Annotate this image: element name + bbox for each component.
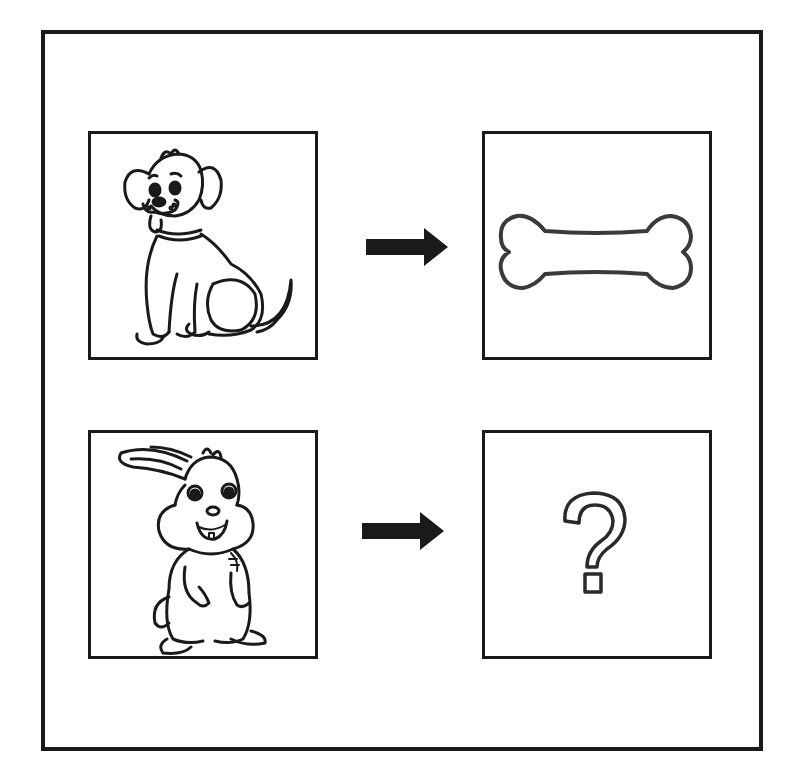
bone-panel: Bone (482, 131, 712, 360)
rabbit-icon (91, 433, 315, 656)
right-arrow-icon (366, 228, 448, 266)
answer-panel[interactable]: ? (482, 430, 712, 659)
rabbit-panel: Rabbit (88, 430, 318, 659)
dog-panel: Dog (88, 131, 318, 360)
right-arrow-icon (362, 512, 444, 550)
bone-icon (485, 134, 709, 357)
dog-icon (91, 134, 315, 357)
question-mark-icon (485, 433, 709, 656)
